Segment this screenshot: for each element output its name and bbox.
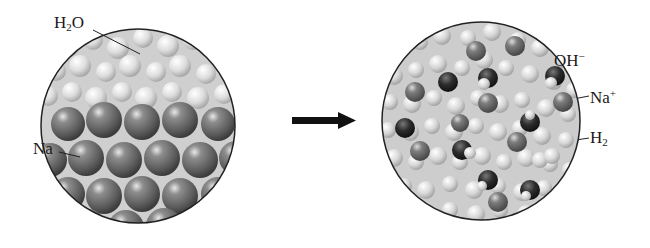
reaction-arrow-icon	[292, 111, 358, 129]
after-reaction-panel	[380, 20, 582, 222]
hydrogen-label: H2	[590, 129, 608, 148]
sodium-ion-label: Na+	[590, 88, 616, 106]
sodium-water-particle-view	[38, 26, 238, 226]
before-reaction-panel	[38, 26, 238, 226]
products-particle-view	[380, 20, 582, 222]
water-label: H2O	[54, 14, 84, 33]
hydroxide-label: OH−	[554, 51, 585, 69]
sodium-label: Na	[33, 140, 53, 157]
